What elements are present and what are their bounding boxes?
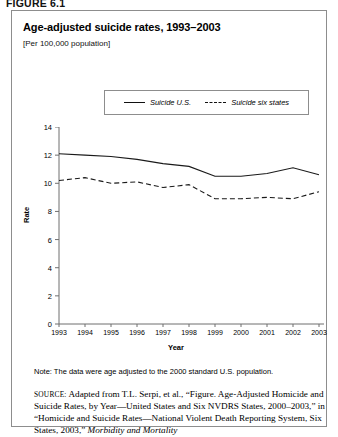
chart-source: SOURCE: Adapted from T.L. Serpi, et al.,… xyxy=(34,388,330,437)
solid-line-icon xyxy=(124,102,145,103)
source-keyword: SOURCE: xyxy=(34,390,67,399)
x-tick-label: 1998 xyxy=(181,329,197,336)
chart-legend: Suicide U.S. Suicide six states xyxy=(104,90,309,115)
x-tick-label: 1994 xyxy=(77,329,93,336)
x-tick-label: 1995 xyxy=(103,329,119,336)
x-tick-label: 1997 xyxy=(155,329,171,336)
x-tick-label: 2003 xyxy=(311,329,327,336)
x-tick-label: 2002 xyxy=(285,329,301,336)
x-tick-label: 1996 xyxy=(129,329,145,336)
legend-item-suicide-six-states: Suicide six states xyxy=(205,98,289,107)
legend-item-suicide-us: Suicide U.S. xyxy=(124,98,191,107)
chart-plot-area: Rate 02468101214 19931994199519961997199… xyxy=(26,127,326,357)
source-journal: Morbidity and Mortality xyxy=(88,425,178,435)
axes-group xyxy=(59,127,324,324)
y-tick-marks xyxy=(55,127,59,324)
figure-number: FIGURE 6.1 xyxy=(6,0,65,9)
chart-note: Note: The data were age adjusted to the … xyxy=(34,367,334,376)
source-body: Adapted from T.L. Serpi, et al., “Figure… xyxy=(34,389,325,435)
legend-label-suicide-us: Suicide U.S. xyxy=(150,98,191,107)
x-tick-label: 2001 xyxy=(259,329,275,336)
legend-label-suicide-six-states: Suicide six states xyxy=(231,98,289,107)
series-line-suicide-us xyxy=(59,154,319,177)
series-line-suicide-six-states xyxy=(59,178,319,199)
x-axis-ticks: 1993199419951996199719981999200020012002… xyxy=(59,326,321,342)
x-tick-label: 1999 xyxy=(207,329,223,336)
figure-subtitle: [Per 100,000 population] xyxy=(23,39,110,48)
x-axis-label: Year xyxy=(26,343,326,352)
figure-panel: Age-adjusted suicide rates, 1993–2003 [P… xyxy=(11,10,327,427)
x-tick-label: 1993 xyxy=(51,329,67,336)
dashed-line-icon xyxy=(205,102,226,103)
x-tick-label: 2000 xyxy=(233,329,249,336)
chart-svg xyxy=(26,127,326,327)
page-title: Age-adjusted suicide rates, 1993–2003 xyxy=(23,21,220,33)
